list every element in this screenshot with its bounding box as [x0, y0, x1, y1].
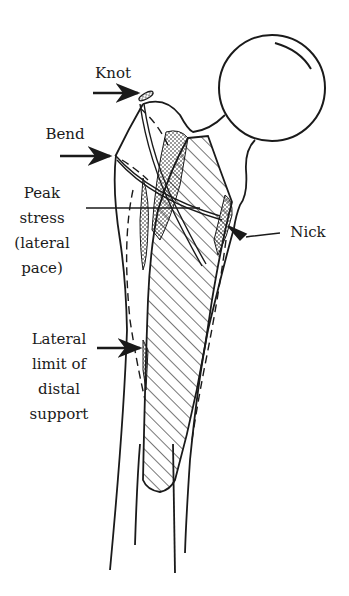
label-nick: Nick — [284, 220, 332, 245]
nick-leader — [246, 233, 280, 237]
femoral-head — [219, 35, 325, 141]
label-peak-stress: Peak stress (lateral pace) — [6, 181, 78, 281]
femur-diagram — [0, 0, 349, 596]
label-bend: Bend — [40, 122, 90, 147]
wire-knot — [138, 89, 155, 102]
label-knot: Knot — [88, 61, 138, 86]
label-lateral-limit-of-distal-support: Lateral limit of distal support — [18, 327, 100, 427]
